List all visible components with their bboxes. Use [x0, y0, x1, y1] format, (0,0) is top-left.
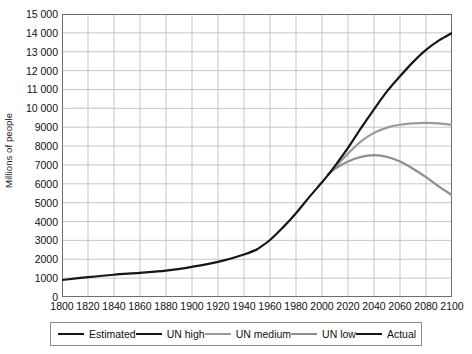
legend-line-swatch	[136, 333, 162, 335]
x-tick-label: 1940	[232, 301, 255, 312]
legend-item-label: Estimated	[89, 328, 136, 340]
legend-item-label: UN low	[322, 328, 356, 340]
plot-svg	[62, 14, 452, 297]
x-tick-label: 1800	[50, 301, 73, 312]
legend-item-label: Actual	[387, 328, 416, 340]
x-tick-label: 1920	[206, 301, 229, 312]
legend-item[interactable]: UN medium	[205, 328, 291, 340]
legend-item-label: UN medium	[236, 328, 291, 340]
legend-item-label: UN high	[167, 328, 205, 340]
x-tick-label: 2020	[336, 301, 359, 312]
legend-item[interactable]: UN high	[136, 328, 205, 340]
x-tick-label: 2040	[362, 301, 385, 312]
x-tick-label: 2060	[388, 301, 411, 312]
legend-line-swatch	[205, 333, 231, 335]
legend: EstimatedUN highUN mediumUN lowActual	[50, 322, 422, 346]
legend-line-swatch	[356, 333, 382, 335]
x-tick-label: 2100	[440, 301, 463, 312]
legend-item[interactable]: Estimated	[58, 328, 136, 340]
x-tick-label: 1840	[102, 301, 125, 312]
x-tick-label: 1980	[284, 301, 307, 312]
population-projection-chart: Millions of people 010002000300040005000…	[0, 0, 472, 354]
x-tick-label: 1880	[154, 301, 177, 312]
x-tick-label: 1820	[76, 301, 99, 312]
series-line-estimated	[62, 249, 257, 280]
plot-area	[62, 14, 452, 297]
legend-item[interactable]: UN low	[291, 328, 356, 340]
series-line-un-low	[329, 155, 453, 195]
x-tick-label: 2000	[310, 301, 333, 312]
legend-line-swatch	[291, 333, 317, 335]
legend-item[interactable]: Actual	[356, 328, 416, 340]
series-line-actual	[257, 174, 329, 249]
x-tick-label: 1960	[258, 301, 281, 312]
x-tick-label: 1900	[180, 301, 203, 312]
x-tick-label: 2080	[414, 301, 437, 312]
x-tick-label: 1860	[128, 301, 151, 312]
plot-frame	[63, 15, 452, 297]
legend-line-swatch	[58, 333, 84, 335]
